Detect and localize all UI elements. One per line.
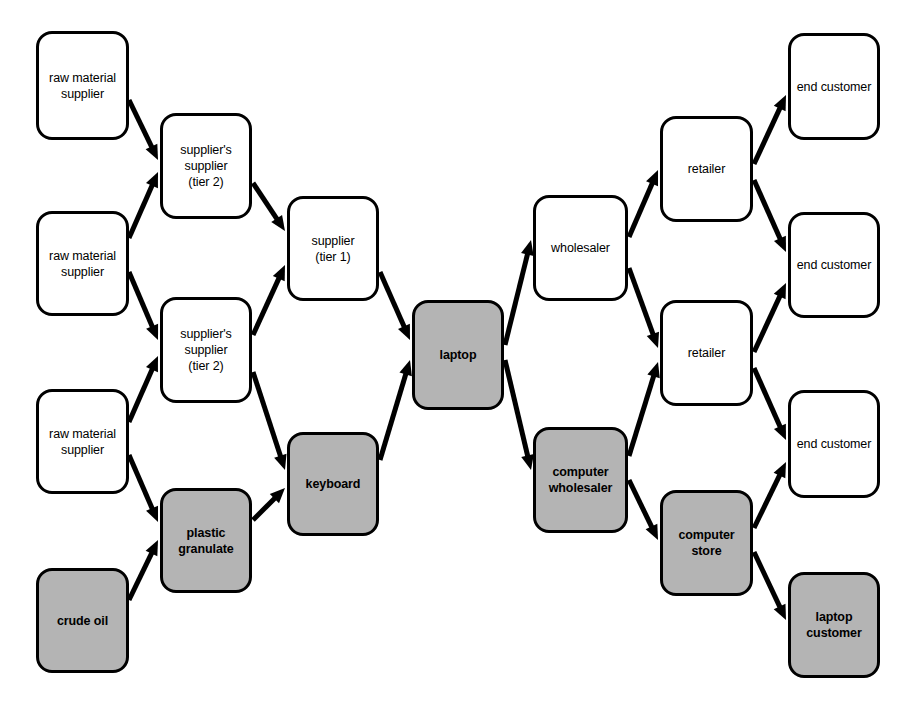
edge-retailer2-to-end2 [754,283,786,352]
arrowhead [146,356,158,372]
edge-line [380,371,407,460]
node-raw2[interactable]: raw material supplier [36,211,129,316]
arrowhead [521,240,534,256]
arrowhead [647,362,659,378]
node-wholesaler[interactable]: wholesaler [533,195,628,301]
edge-line [129,100,153,149]
supply-chain-diagram: raw material supplierraw material suppli… [0,0,901,705]
edge-line [129,455,153,511]
edge-compstore-to-end3 [754,462,786,528]
node-label: retailer [684,161,729,177]
arrowhead [774,95,786,111]
node-compwhole[interactable]: computer wholesaler [533,427,628,533]
node-sup1[interactable]: supplier (tier 1) [287,196,379,301]
node-plastic[interactable]: plastic granulate [160,488,252,593]
edge-keyboard-to-laptop [380,360,412,460]
edge-line [629,181,653,237]
node-laptop[interactable]: laptop [412,300,504,410]
edge-line [253,276,280,335]
edge-retailer2-to-end3 [754,368,786,440]
node-label: keyboard [302,476,365,492]
arrowhead [647,332,659,348]
edge-line [754,294,781,352]
edge-line [129,367,153,422]
edge-line [505,360,528,458]
arrowhead [774,604,786,620]
arrowhead [274,454,286,470]
node-label: wholesaler [547,240,614,256]
node-label: supplier's supplier (tier 2) [176,326,235,374]
edge-raw1-to-supsup1 [129,100,158,160]
edge-raw3-to-supsup2 [129,356,158,422]
edge-compwhole-to-compstore [629,480,658,540]
edge-crude-to-plastic [129,540,158,600]
edge-sup1-to-laptop [380,272,410,340]
arrowhead [146,506,158,522]
node-keyboard[interactable]: keyboard [287,432,379,536]
edge-line [754,473,781,528]
edge-line [505,252,528,345]
arrowhead [774,424,786,440]
node-label: laptop customer [802,609,865,641]
edge-laptop-to-wholesaler [505,240,534,345]
node-crude[interactable]: crude oil [36,568,129,673]
node-label: retailer [684,345,729,361]
edge-line [380,272,405,329]
node-retailer2[interactable]: retailer [660,300,753,406]
edge-line [754,368,781,429]
arrowhead [521,454,534,470]
node-label: end customer [793,79,876,95]
arrowhead [646,170,658,186]
node-label: raw material supplier [45,426,120,458]
edge-laptop-to-compwhole [505,360,534,470]
edge-retailer1-to-end1 [754,95,786,164]
node-label: supplier's supplier (tier 2) [176,142,235,190]
edge-line [129,272,153,329]
arrowhead [273,265,285,281]
edge-line [129,183,153,238]
edge-compstore-to-laptopcust [754,552,786,620]
arrowhead [271,215,285,231]
edge-line [629,480,653,529]
node-label: crude oil [53,613,112,629]
arrowhead [146,540,158,556]
edge-supsup1-to-sup1 [253,183,285,231]
node-retailer1[interactable]: retailer [660,116,753,222]
edge-raw3-to-plastic [129,455,158,522]
arrowhead [774,283,786,299]
node-compstore[interactable]: computer store [660,490,753,596]
edge-plastic-to-keyboard [253,488,285,520]
node-raw3[interactable]: raw material supplier [36,389,129,494]
node-label: end customer [793,436,876,452]
edge-wholesaler-to-retailer2 [629,268,659,348]
node-label: computer wholesaler [545,464,617,496]
node-label: supplier (tier 1) [308,233,359,265]
node-laptopcust[interactable]: laptop customer [788,572,880,678]
edge-line [754,106,781,164]
edge-line [754,552,781,609]
edge-raw2-to-supsup2 [129,272,158,340]
node-supsup2[interactable]: supplier's supplier (tier 2) [160,297,252,403]
node-label: plastic granulate [174,525,237,557]
edge-line [129,551,153,600]
arrowhead [146,144,158,160]
arrowhead [270,488,285,503]
edge-wholesaler-to-retailer1 [629,170,658,237]
edge-line [253,183,278,221]
arrowhead [646,524,658,540]
node-end2[interactable]: end customer [788,212,880,318]
node-raw1[interactable]: raw material supplier [36,31,129,140]
node-label: raw material supplier [45,70,120,102]
edge-retailer1-to-end2 [754,180,786,252]
node-supsup1[interactable]: supplier's supplier (tier 2) [160,113,252,219]
node-end3[interactable]: end customer [788,390,880,498]
edge-compwhole-to-retailer2 [629,362,660,456]
edge-line [253,372,281,459]
node-label: laptop [436,347,481,363]
arrowhead [774,236,786,252]
node-end1[interactable]: end customer [788,33,880,140]
edge-supsup2-to-keyboard [253,372,287,470]
edge-line [629,373,654,456]
arrowhead [774,462,786,478]
edge-line [253,496,277,520]
